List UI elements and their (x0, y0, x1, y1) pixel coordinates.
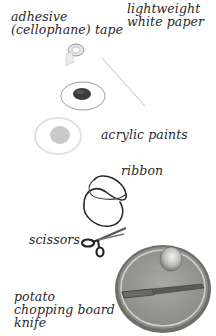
paint-dish-light-image (32, 116, 84, 158)
label-scissors-line-1: scissors (29, 233, 80, 246)
label-board: potato chopping board knife (14, 290, 115, 329)
chopping-board-image (112, 242, 214, 336)
label-tape: adhesive (cellophane) tape (11, 10, 123, 36)
label-paper: lightweight white paper (127, 2, 204, 28)
paint-dish-dark-image (59, 80, 109, 116)
label-tape-line-2: (cellophane) tape (11, 23, 123, 36)
label-paints: acrylic paints (101, 128, 188, 141)
tape-roll-image (58, 40, 88, 68)
label-paints-line-1: acrylic paints (101, 128, 188, 141)
label-board-line-3: knife (14, 316, 115, 329)
label-scissors: scissors (29, 233, 80, 246)
label-paper-line-2: white paper (127, 15, 204, 28)
